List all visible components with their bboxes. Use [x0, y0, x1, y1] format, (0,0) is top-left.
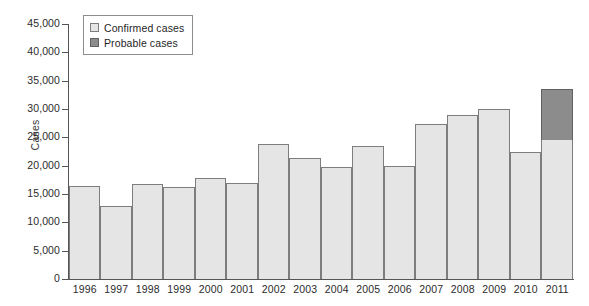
- bar-2001[interactable]: [227, 24, 259, 279]
- bar-segment-confirmed[interactable]: [289, 158, 321, 279]
- y-tick-label: 15,000: [27, 187, 60, 199]
- bar-segment-confirmed[interactable]: [447, 115, 479, 279]
- y-tick-label: 45,000: [27, 17, 60, 29]
- y-tick-mark: [62, 24, 68, 25]
- bar-2006[interactable]: [384, 24, 416, 279]
- bar-segment-confirmed[interactable]: [415, 124, 447, 279]
- y-tick-label: 0: [54, 272, 60, 284]
- x-axis-tick-labels: 1996199719981999200020012002200320042005…: [69, 283, 573, 295]
- y-tick-mark: [62, 52, 68, 53]
- y-tick-mark: [62, 109, 68, 110]
- chart-legend: Confirmed cases Probable cases: [83, 15, 193, 55]
- x-tick-label-2011: 2011: [542, 283, 574, 295]
- x-tick-label-2004: 2004: [321, 283, 353, 295]
- y-tick-mark: [62, 81, 68, 82]
- y-tick-mark: [62, 279, 68, 280]
- bar-2007[interactable]: [416, 24, 448, 279]
- bar-segment-confirmed[interactable]: [132, 184, 164, 279]
- bar-2008[interactable]: [447, 24, 479, 279]
- y-tick-mark: [62, 166, 68, 167]
- bar-1998[interactable]: [132, 24, 164, 279]
- legend-item-confirmed: Confirmed cases: [90, 20, 184, 35]
- x-tick-label-2003: 2003: [290, 283, 322, 295]
- bar-2000[interactable]: [195, 24, 227, 279]
- bar-segment-confirmed[interactable]: [352, 146, 384, 279]
- bar-segment-confirmed[interactable]: [321, 167, 353, 279]
- bar-1997[interactable]: [101, 24, 133, 279]
- x-tick-label-2006: 2006: [384, 283, 416, 295]
- bar-1999[interactable]: [164, 24, 196, 279]
- x-tick-label-1997: 1997: [101, 283, 133, 295]
- y-tick-label: 5,000: [33, 244, 60, 256]
- x-tick-label-1996: 1996: [69, 283, 101, 295]
- bar-segment-confirmed[interactable]: [163, 187, 195, 279]
- x-tick-label-2000: 2000: [195, 283, 227, 295]
- y-tick-mark: [62, 222, 68, 223]
- bar-segment-probable[interactable]: [541, 89, 573, 140]
- bar-2011[interactable]: [542, 24, 574, 279]
- bar-segment-confirmed[interactable]: [69, 186, 101, 280]
- x-tick-label-1998: 1998: [132, 283, 164, 295]
- bar-segment-confirmed[interactable]: [384, 166, 416, 279]
- y-tick-label: 10,000: [27, 215, 60, 227]
- bar-2010[interactable]: [510, 24, 542, 279]
- bar-segment-confirmed[interactable]: [478, 109, 510, 279]
- bar-segment-confirmed[interactable]: [100, 206, 132, 279]
- bar-2009[interactable]: [479, 24, 511, 279]
- legend-label-probable: Probable cases: [104, 37, 178, 49]
- bar-2004[interactable]: [321, 24, 353, 279]
- bar-2003[interactable]: [290, 24, 322, 279]
- legend-swatch-confirmed-icon: [90, 23, 99, 32]
- x-tick-label-1999: 1999: [164, 283, 196, 295]
- x-tick-label-2005: 2005: [353, 283, 385, 295]
- legend-label-confirmed: Confirmed cases: [104, 22, 184, 34]
- y-tick-label: 35,000: [27, 74, 60, 86]
- bar-segment-confirmed[interactable]: [258, 144, 290, 279]
- x-tick-label-2002: 2002: [258, 283, 290, 295]
- x-tick-label-2001: 2001: [227, 283, 259, 295]
- y-tick-label: 25,000: [27, 130, 60, 142]
- bar-2005[interactable]: [353, 24, 385, 279]
- x-tick-label-2008: 2008: [447, 283, 479, 295]
- y-tick-label: 30,000: [27, 102, 60, 114]
- x-tick-label-2007: 2007: [416, 283, 448, 295]
- y-tick-mark: [62, 251, 68, 252]
- y-tick-mark: [62, 194, 68, 195]
- x-tick-label-2009: 2009: [479, 283, 511, 295]
- bar-1996[interactable]: [69, 24, 101, 279]
- bar-segment-confirmed[interactable]: [226, 183, 258, 279]
- x-tick-label-2010: 2010: [510, 283, 542, 295]
- bar-chart: Cases 05,00010,00015,00020,00025,00030,0…: [0, 0, 589, 306]
- y-tick-label: 40,000: [27, 45, 60, 57]
- bar-segment-confirmed[interactable]: [510, 152, 542, 280]
- bar-segment-confirmed[interactable]: [541, 140, 573, 279]
- y-tick-mark: [62, 137, 68, 138]
- bar-series-group: [69, 24, 573, 279]
- y-tick-label: 20,000: [27, 159, 60, 171]
- bar-2002[interactable]: [258, 24, 290, 279]
- legend-item-probable: Probable cases: [90, 35, 184, 50]
- bar-segment-confirmed[interactable]: [195, 178, 227, 279]
- legend-swatch-probable-icon: [90, 38, 99, 47]
